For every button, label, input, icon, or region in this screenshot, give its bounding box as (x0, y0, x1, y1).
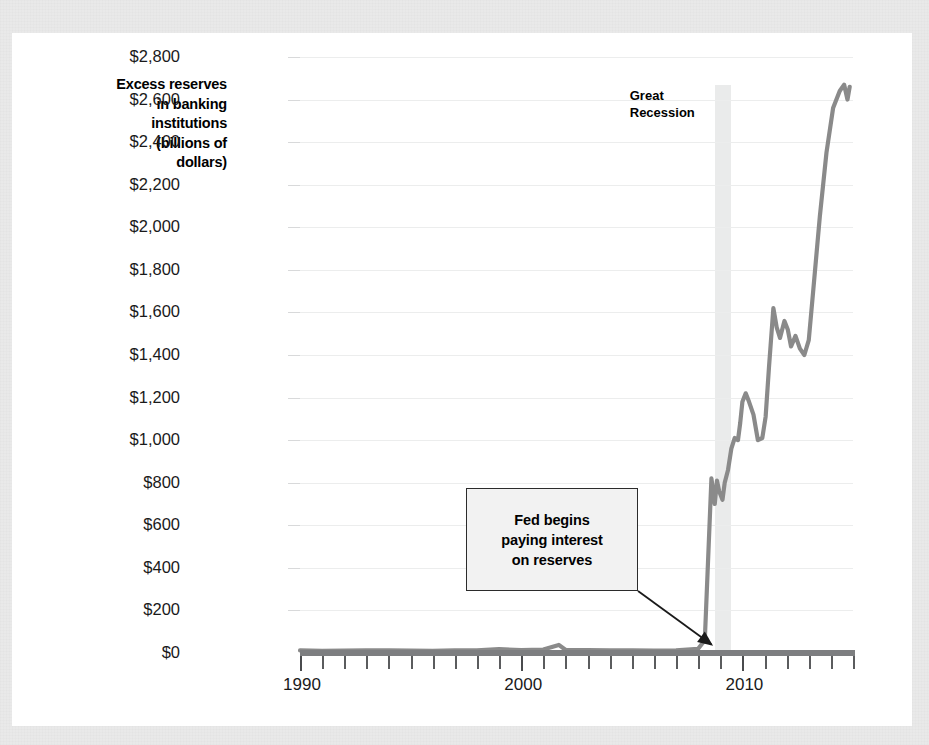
y-axis-tick-label: $2,000 (84, 217, 180, 236)
y-axis-tick (288, 312, 300, 313)
x-axis-tick (477, 656, 479, 669)
y-axis-tick-label: $1,800 (84, 260, 180, 279)
x-axis-tick (853, 656, 855, 669)
y-axis-tick (288, 142, 300, 143)
x-axis-tick (433, 656, 435, 669)
y-axis-tick-label: $800 (84, 473, 180, 492)
x-axis-tick (455, 656, 457, 669)
y-axis-tick (288, 100, 300, 101)
x-axis-tick (388, 656, 390, 669)
x-axis-tick (366, 656, 368, 669)
y-axis-tick-label: $1,600 (84, 302, 180, 321)
y-axis-tick (288, 227, 300, 228)
y-axis-tick-label: $0 (84, 643, 180, 662)
x-axis-tick (632, 656, 634, 669)
y-axis-tick (288, 398, 300, 399)
line-chart: Excess reservesin bankinginstitutions(bi… (12, 33, 912, 726)
x-axis-line (300, 650, 855, 656)
y-axis-tick-label: $200 (84, 600, 180, 619)
y-axis-tick-label: $1,200 (84, 388, 180, 407)
x-axis-tick (344, 656, 346, 669)
y-axis-tick (288, 57, 300, 58)
x-axis-tick (809, 656, 811, 669)
annotation-line: on reserves (501, 550, 603, 570)
annotation-line: paying interest (501, 530, 603, 550)
x-axis-tick (698, 656, 700, 669)
x-axis-tick (521, 656, 523, 671)
x-axis-tick (543, 656, 545, 669)
x-axis-tick (322, 656, 324, 669)
y-axis-tick-label: $2,600 (84, 90, 180, 109)
y-axis-tick (288, 355, 300, 356)
x-axis-tick (787, 656, 789, 669)
y-axis-tick-label: $400 (84, 558, 180, 577)
annotation-line: Fed begins (501, 510, 603, 530)
x-axis-tick (765, 656, 767, 669)
x-axis-tick (610, 656, 612, 669)
y-axis-title-line: institutions (62, 114, 227, 134)
annotation-callout-box: Fed beginspaying intereston reserves (466, 488, 638, 591)
x-axis-tick (499, 656, 501, 669)
x-axis-tick (831, 656, 833, 669)
y-axis-tick-label: $2,200 (84, 175, 180, 194)
y-axis-tick (288, 610, 300, 611)
y-axis-tick (288, 483, 300, 484)
x-axis-tick (300, 656, 302, 671)
x-axis-tick (742, 656, 744, 671)
x-axis-tick (654, 656, 656, 669)
figure-card: Excess reservesin bankinginstitutions(bi… (12, 33, 912, 726)
y-axis-tick (288, 270, 300, 271)
annotation-callout-text: Fed beginspaying intereston reserves (501, 510, 603, 570)
x-axis-tick (676, 656, 678, 669)
y-axis-tick-label: $600 (84, 515, 180, 534)
y-axis-title-line: dollars) (62, 153, 227, 173)
y-axis-tick-label: $1,000 (84, 430, 180, 449)
y-axis-tick-label: $1,400 (84, 345, 180, 364)
y-axis-tick (288, 568, 300, 569)
y-axis-tick (288, 525, 300, 526)
x-axis-tick-label: 2010 (725, 675, 763, 695)
x-axis-tick (720, 656, 722, 669)
y-axis-tick-label: $2,800 (84, 47, 180, 66)
x-axis-tick-label: 1990 (283, 675, 321, 695)
x-axis-tick (565, 656, 567, 669)
y-axis-tick (288, 440, 300, 441)
y-axis-tick-label: $2,400 (84, 132, 180, 151)
x-axis-tick (411, 656, 413, 669)
x-axis-tick (588, 656, 590, 669)
y-axis-tick (288, 185, 300, 186)
x-axis-tick-label: 2000 (504, 675, 542, 695)
